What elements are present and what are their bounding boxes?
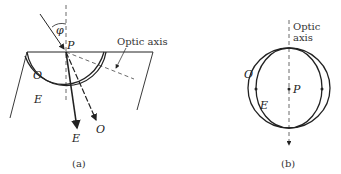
- optic-axis-label-line2: axis: [293, 32, 313, 43]
- panel-a: φ P Optic axis O E E O (a): [10, 5, 168, 169]
- center-point: [288, 88, 291, 91]
- optic-axis-pointer: [116, 48, 126, 68]
- birefringence-diagram: φ P Optic axis O E E O (a) Optic axis P …: [0, 0, 341, 174]
- point-label-b: P: [292, 83, 301, 96]
- point-label: P: [66, 39, 75, 52]
- e-wave-label: E: [33, 93, 42, 106]
- crystal-left-edge: [10, 52, 27, 118]
- o-ray-label: O: [96, 123, 105, 136]
- o-wave-label-b: O: [244, 68, 253, 81]
- right-dot: [321, 88, 324, 91]
- panel-b: Optic axis P O E (b): [244, 20, 330, 169]
- optic-axis-label-line1: Optic: [293, 21, 321, 32]
- optic-axis-label: Optic axis: [117, 36, 168, 47]
- e-wave-label-b: E: [259, 99, 268, 112]
- e-ray-label: E: [71, 132, 80, 145]
- caption-b: (b): [281, 158, 295, 169]
- crystal-right-edge: [137, 52, 153, 110]
- o-wave-label: O: [33, 69, 42, 82]
- left-dot: [255, 88, 258, 91]
- caption-a: (a): [72, 158, 86, 169]
- angle-label: φ: [56, 24, 64, 37]
